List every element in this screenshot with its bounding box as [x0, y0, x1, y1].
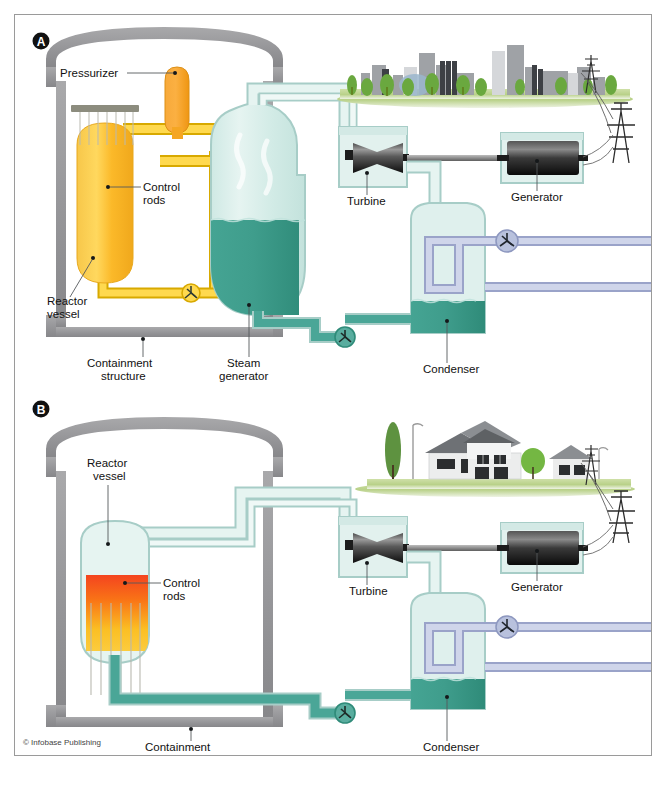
- label-pressurizer-a: Pressurizer: [60, 67, 118, 79]
- cooling-pump-a[interactable]: [496, 230, 518, 252]
- label-containment-a-l1: Containment: [87, 357, 153, 369]
- label-turbine-b: Turbine: [349, 585, 388, 597]
- figure-frame: A: [14, 14, 652, 756]
- generator-a: [497, 133, 588, 183]
- label-control-rods-b-l2: rods: [163, 590, 186, 602]
- panel-a-badge: A: [33, 33, 50, 50]
- label-control-rods-a-l1: Control: [143, 181, 180, 193]
- label-generator-a: Generator: [511, 191, 563, 203]
- reactor-vessel-a: [71, 105, 139, 283]
- condensate-pump-b[interactable]: [335, 703, 355, 723]
- turbine-shaft-a: [407, 155, 503, 161]
- steam-generator-a: [211, 103, 305, 315]
- transmission-tower-near-a: [607, 103, 635, 163]
- label-control-rods-b-l1: Control: [163, 577, 200, 589]
- panel-b-badge-label: B: [37, 403, 46, 417]
- panel-a-badge-label: A: [37, 35, 46, 49]
- label-condenser-a: Condenser: [423, 363, 479, 375]
- label-generator-b: Generator: [511, 581, 563, 593]
- panel-b: B: [23, 401, 651, 756]
- condenser-b: [345, 593, 651, 709]
- label-turbine-a: Turbine: [347, 195, 386, 207]
- primary-pump-a[interactable]: [182, 284, 200, 302]
- label-containment-b-l2: structure: [159, 754, 204, 755]
- panel-b-badge: B: [33, 401, 50, 418]
- transmission-tower-near-b: [607, 491, 635, 543]
- label-reactor-vessel-b-l2: vessel: [93, 470, 126, 482]
- copyright-notice: © Infobase Publishing: [23, 738, 101, 747]
- label-steam-generator-a-l1: Steam: [227, 357, 260, 369]
- turbine-b: [339, 517, 409, 577]
- cooling-pump-b[interactable]: [496, 616, 518, 638]
- turbine-shaft-b: [407, 545, 503, 551]
- steam-line-b: [119, 493, 353, 543]
- condensate-pump-a[interactable]: [335, 327, 355, 347]
- label-containment-b-l1: Containment: [145, 741, 211, 753]
- label-reactor-vessel-a-l2: vessel: [47, 308, 80, 320]
- turbine-a: [339, 127, 409, 187]
- label-containment-a-l2: structure: [101, 370, 146, 382]
- label-control-rods-a-l2: rods: [143, 194, 166, 206]
- pressurizer-a: [165, 67, 189, 139]
- condenser-a: [345, 203, 651, 333]
- generator-b: [497, 523, 588, 573]
- label-reactor-vessel-b-l1: Reactor: [87, 457, 127, 469]
- panel-a: A: [33, 27, 652, 382]
- label-steam-generator-a-l2: generator: [219, 370, 268, 382]
- diagram-canvas: A: [15, 15, 651, 755]
- label-condenser-b: Condenser: [423, 741, 479, 753]
- feedwater-line-b: [115, 655, 345, 713]
- label-reactor-vessel-a-l1: Reactor: [47, 295, 87, 307]
